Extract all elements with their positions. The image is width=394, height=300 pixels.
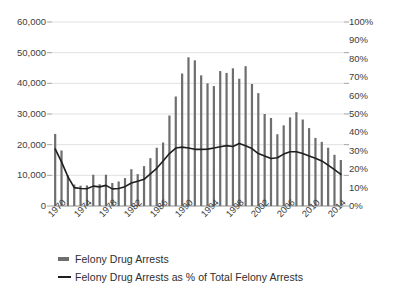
legend-item-line: Felony Drug Arrests as % of Total Felony…	[58, 268, 388, 286]
y-axis-left-tick-label: 60,000	[0, 16, 46, 27]
y-axis-right-tick-label: 90%	[349, 34, 391, 45]
y-axis-right-tick-label: 70%	[349, 71, 391, 82]
line-series-percent-of-total	[52, 22, 344, 206]
y-axis-right-tick-label: 60%	[349, 90, 391, 101]
trend-line	[55, 143, 341, 188]
x-axis-tick-label: 1970	[46, 197, 68, 219]
legend-item-bars: Felony Drug Arrests	[58, 250, 388, 268]
chart-container: 010,00020,00030,00040,00050,00060,000 0%…	[0, 0, 394, 300]
y-axis-right-tick-label: 50%	[349, 108, 391, 119]
legend-label-bars: Felony Drug Arrests	[75, 253, 169, 265]
bar-swatch-icon	[58, 257, 69, 261]
y-axis-left-tick-label: 40,000	[0, 77, 46, 88]
y-axis-right-tick-label: 20%	[349, 163, 391, 174]
y-axis-right-tick-label: 30%	[349, 145, 391, 156]
plot-area	[52, 22, 344, 206]
line-swatch-icon	[58, 276, 71, 278]
y-axis-left-tick-label: 10,000	[0, 169, 46, 180]
y-axis-left-tick-label: 20,000	[0, 139, 46, 150]
chart-legend: Felony Drug Arrests Felony Drug Arrests …	[58, 250, 388, 286]
y-axis-right-tick-label: 80%	[349, 53, 391, 64]
legend-label-line: Felony Drug Arrests as % of Total Felony…	[75, 271, 303, 283]
y-axis-right-tick-label: 10%	[349, 182, 391, 193]
y-axis-right-tick-label: 100%	[349, 16, 391, 27]
y-axis-left-tick-label: 0	[0, 200, 46, 211]
y-axis-left-tick-label: 30,000	[0, 108, 46, 119]
y-axis-right-tick-label: 40%	[349, 126, 391, 137]
y-axis-left-tick-label: 50,000	[0, 47, 46, 58]
y-axis-right-tick-label: 0%	[349, 200, 391, 211]
